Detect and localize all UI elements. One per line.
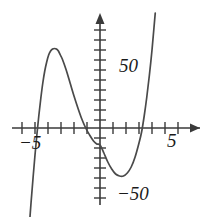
graph-plot-area xyxy=(0,0,215,217)
y-axis xyxy=(94,13,106,205)
x-axis-arrow-icon xyxy=(190,124,200,133)
x-axis-label-negative-five: −5 xyxy=(19,133,41,152)
y-axis-label-negative-fifty: −50 xyxy=(117,184,149,203)
y-axis-arrow-icon xyxy=(96,13,105,24)
y-axis-label-positive-fifty: 50 xyxy=(119,56,138,75)
x-axis-label-positive-five: 5 xyxy=(167,131,177,150)
cubic-function-graph: −5 5 50 −50 xyxy=(0,0,215,217)
